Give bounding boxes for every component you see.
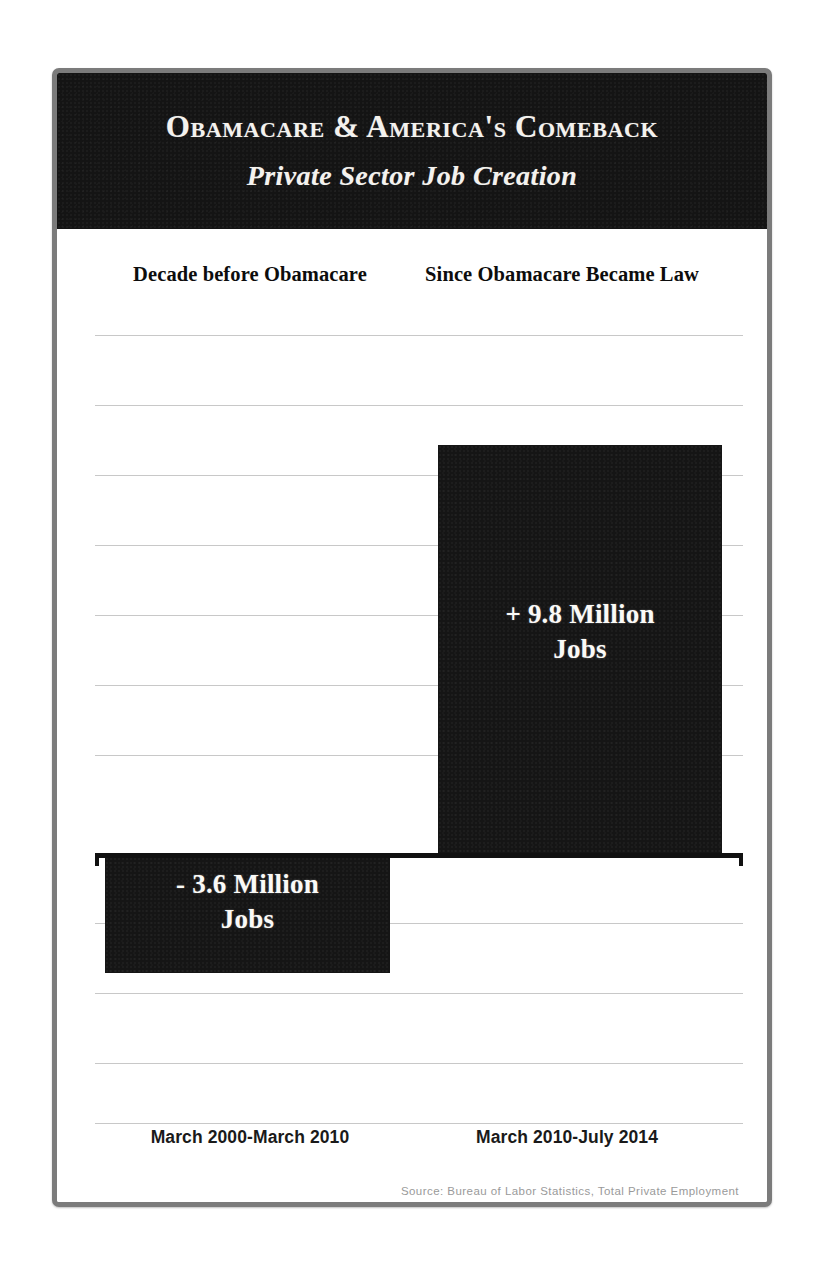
poster-page: Obamacare & America's Comeback Private S… — [0, 0, 815, 1282]
bar-label-decade-before: - 3.6 Million Jobs — [105, 867, 390, 937]
gridline — [95, 335, 743, 336]
date-labels: March 2000-March 2010 March 2010-July 20… — [57, 1127, 767, 1157]
column-headers: Decade before Obamacare Since Obamacare … — [57, 261, 767, 323]
bar-value-line1: + 9.8 Million — [438, 597, 722, 632]
gridline — [95, 993, 743, 994]
gridline — [95, 1123, 743, 1124]
gridline — [95, 405, 743, 406]
poster-frame: Obamacare & America's Comeback Private S… — [52, 68, 772, 1207]
plot-area: + 9.8 Million Jobs - 3.6 Million Jobs — [57, 335, 767, 1125]
column-header-decade-before: Decade before Obamacare — [115, 261, 385, 287]
title-band: Obamacare & America's Comeback Private S… — [57, 73, 767, 229]
bar-label-since-obamacare: + 9.8 Million Jobs — [438, 597, 722, 667]
chart-body: Decade before Obamacare Since Obamacare … — [57, 229, 767, 1202]
poster-title: Obamacare & America's Comeback — [166, 110, 658, 144]
poster-subtitle: Private Sector Job Creation — [247, 160, 577, 192]
bar-since-obamacare: + 9.8 Million Jobs — [438, 445, 722, 853]
bar-value-line2: Jobs — [105, 902, 390, 937]
bar-value-line1: - 3.6 Million — [105, 867, 390, 902]
source-note: Source: Bureau of Labor Statistics, Tota… — [401, 1185, 739, 1197]
gridline — [95, 1063, 743, 1064]
zero-axis-line — [95, 853, 743, 858]
date-label-since-obamacare: March 2010-July 2014 — [417, 1127, 717, 1148]
bar-decade-before: - 3.6 Million Jobs — [105, 853, 390, 973]
bar-value-line2: Jobs — [438, 632, 722, 667]
date-label-decade-before: March 2000-March 2010 — [105, 1127, 395, 1148]
column-header-since-obamacare: Since Obamacare Became Law — [412, 261, 712, 287]
